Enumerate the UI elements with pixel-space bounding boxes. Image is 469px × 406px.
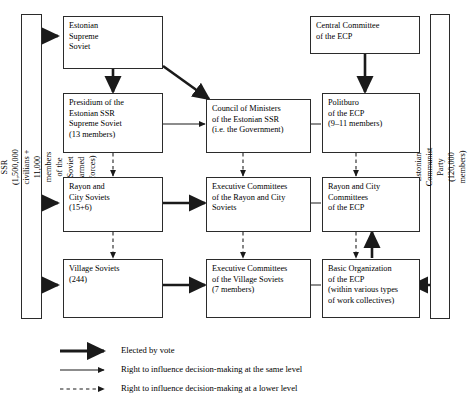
legend-glyph-thick-arrow xyxy=(58,342,110,360)
node-label: Rayon and City Committees of the ECP xyxy=(328,182,416,214)
node-label: Village Soviets (244) xyxy=(69,264,159,285)
side-label-citizens: Citizens of the Estonian SSR (1,500,000 … xyxy=(21,14,42,319)
legend-label: Elected by vote xyxy=(121,344,174,356)
legend-label: Right to influence decision-making at a … xyxy=(121,382,297,394)
node-council-of-ministers: Council of Ministers of the Estonian SSR… xyxy=(206,99,311,153)
node-label: Council of Ministers of the Estonian SSR… xyxy=(212,104,307,136)
node-label: Executive Committees of the Rayon and Ci… xyxy=(212,182,307,214)
side-label-communist-party: Estonian Communist Party (120,000 member… xyxy=(430,14,450,319)
legend-label: Right to influence decision-making at th… xyxy=(121,363,302,375)
node-village-soviets: Village Soviets (244) xyxy=(63,259,163,318)
diagram-canvas: Citizens of the Estonian SSR (1,500,000 … xyxy=(0,0,469,406)
node-presidium: Presidium of the Estonian SSR Supreme So… xyxy=(63,93,163,153)
node-rayon-city-soviets: Rayon and City Soviets (15+6) xyxy=(63,177,163,232)
legend-glyph-dashed-arrow xyxy=(58,380,110,398)
node-rayon-city-committees-ecp: Rayon and City Committees of the ECP xyxy=(322,177,420,232)
arrow-elected-by-vote xyxy=(42,36,449,285)
node-label: Politburo of the ECP (9–11 members) xyxy=(328,98,416,130)
legend: Elected by vote Right to influence decis… xyxy=(0,336,469,406)
node-label: Basic Organization of the ECP (within va… xyxy=(328,264,416,306)
legend-row-elected-by-vote: Elected by vote xyxy=(0,342,469,360)
node-label: Presidium of the Estonian SSR Supreme So… xyxy=(69,98,159,140)
node-politburo: Politburo of the ECP (9–11 members) xyxy=(322,93,420,153)
node-label: Rayon and City Soviets (15+6) xyxy=(69,182,159,214)
legend-row-lower-level: Right to influence decision-making at a … xyxy=(0,380,469,398)
node-label: Estonian Supreme Soviet xyxy=(69,21,159,53)
node-exec-committees-village: Executive Committees of the Village Sovi… xyxy=(206,259,311,318)
node-central-committee-ecp: Central Committee of the ECP xyxy=(310,16,420,54)
legend-row-same-level: Right to influence decision-making at th… xyxy=(0,361,469,379)
node-exec-committees-rayon: Executive Committees of the Rayon and Ci… xyxy=(206,177,311,232)
side-label-communist-party-text: Estonian Communist Party (120,000 member… xyxy=(413,147,468,186)
node-label: Executive Committees of the Village Sovi… xyxy=(212,264,307,296)
node-estonian-supreme-soviet: Estonian Supreme Soviet xyxy=(63,16,163,69)
node-label: Central Committee of the ECP xyxy=(316,21,416,42)
legend-glyph-thin-arrow xyxy=(58,361,110,379)
node-basic-organization-ecp: Basic Organization of the ECP (within va… xyxy=(322,259,420,318)
